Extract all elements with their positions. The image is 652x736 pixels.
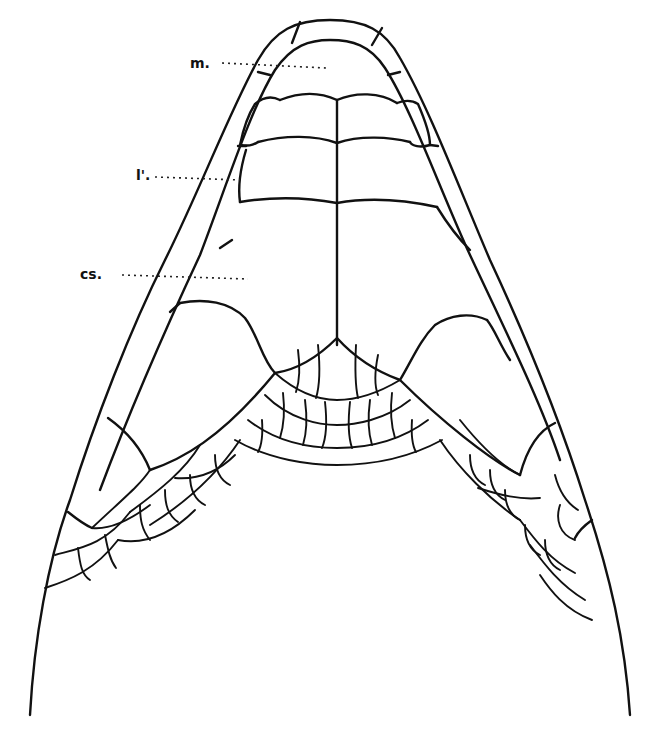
head-outline <box>30 20 630 715</box>
label-chin-shield: cs. <box>80 266 102 282</box>
posterior-chin-shields <box>170 301 510 380</box>
chin-shields <box>220 94 470 345</box>
label-labial: l'. <box>136 167 150 183</box>
sublabial-scales <box>68 373 592 538</box>
label-mental: m. <box>190 55 210 71</box>
gular-scales-left <box>45 440 240 588</box>
head-scale-diagram: m. l'. cs. <box>0 0 652 736</box>
gular-scales-center <box>235 345 442 465</box>
mental-scales <box>258 22 400 75</box>
